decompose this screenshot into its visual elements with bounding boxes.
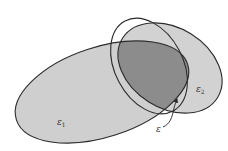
label-e: ε — [156, 124, 161, 134]
ellipsoid-diagram: ε1 ε2 ε — [0, 0, 228, 151]
